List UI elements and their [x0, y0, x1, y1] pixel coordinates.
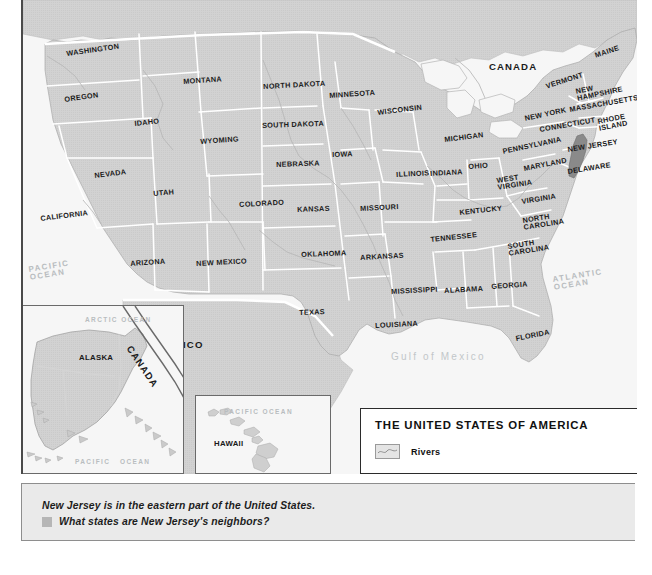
caption-question: What states are New Jersey's neighbors?	[59, 514, 269, 530]
alaska-map	[23, 306, 184, 474]
state-label-iowa: IOWA	[332, 150, 353, 158]
inset-hawaii-ocean-label: PACIFIC OCEAN	[224, 408, 293, 416]
caption-question-row: What states are New Jersey's neighbors?	[42, 514, 635, 530]
map-legend: THE UNITED STATES OF AMERICA Rivers	[360, 408, 637, 474]
inset-alaska-state-label: ALASKA	[79, 354, 113, 362]
state-label-texas: TEXAS	[299, 308, 325, 317]
state-label-ohio: OHIO	[468, 162, 488, 171]
question-bullet-icon	[42, 517, 52, 527]
country-label-canada: CANADA	[489, 62, 537, 72]
map-page: PACIFICOCEAN ATLANTICOCEAN Gulf of Mexic…	[0, 0, 652, 575]
inset-hawaii: HAWAII PACIFIC OCEAN	[195, 395, 331, 474]
inset-hawaii-state-label: HAWAII	[214, 440, 244, 448]
map-frame: PACIFICOCEAN ATLANTICOCEAN Gulf of Mexic…	[21, 0, 637, 474]
inset-alaska-arctic-ocean-label: ARCTIC OCEAN	[85, 316, 152, 324]
caption-statement: New Jersey is in the eastern part of the…	[42, 498, 635, 514]
legend-rivers-row: Rivers	[375, 444, 637, 459]
state-label-alabama: ALABAMA	[444, 285, 483, 295]
state-label-oklahoma: OKLAHOMA	[301, 249, 347, 258]
state-label-kansas: KANSAS	[297, 205, 330, 214]
state-label-nebraska: NEBRASKA	[276, 159, 320, 168]
legend-title: THE UNITED STATES OF AMERICA	[375, 419, 637, 431]
legend-rivers-label: Rivers	[411, 447, 440, 457]
state-label-utah: UTAH	[153, 188, 175, 197]
state-label-illinois: ILLINOIS	[396, 169, 430, 178]
river-swatch-icon	[375, 444, 400, 459]
inset-alaska: ALASKA CANADA ARCTIC OCEAN PACIFIC OCEAN	[23, 305, 184, 474]
state-label-indiana: INDIANA	[430, 168, 463, 177]
gulf-of-mexico-label: Gulf of Mexico	[391, 351, 486, 362]
inset-alaska-pacific-ocean-label: PACIFIC OCEAN	[75, 458, 150, 466]
state-label-missouri: MISSOURI	[360, 203, 399, 213]
caption-box: New Jersey is in the eastern part of the…	[21, 483, 635, 541]
